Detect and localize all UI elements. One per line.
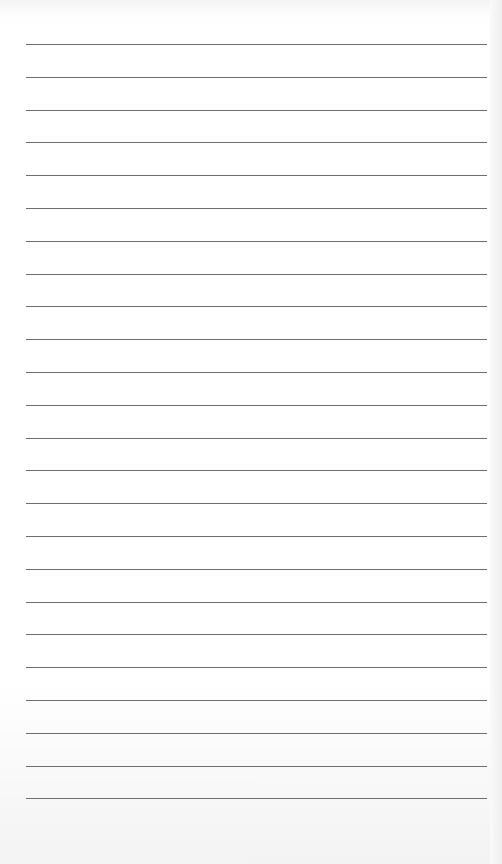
- ruled-line: [26, 274, 487, 275]
- ruled-line: [26, 667, 487, 668]
- ruled-line: [26, 142, 487, 143]
- ruled-line: [26, 602, 487, 603]
- ruled-line: [26, 241, 487, 242]
- ruled-line: [26, 700, 487, 701]
- ruled-line: [26, 372, 487, 373]
- ruled-line: [26, 766, 487, 767]
- ruled-line: [26, 503, 487, 504]
- ruled-line: [26, 339, 487, 340]
- ruled-line: [26, 110, 487, 111]
- ruled-line: [26, 798, 487, 799]
- paper-right-edge: [490, 0, 502, 864]
- ruled-line: [26, 470, 487, 471]
- ruled-line: [26, 733, 487, 734]
- ruled-line: [26, 634, 487, 635]
- lined-paper-sheet: [0, 0, 502, 864]
- ruled-line: [26, 569, 487, 570]
- ruled-line: [26, 44, 487, 45]
- ruled-line: [26, 208, 487, 209]
- ruled-line: [26, 405, 487, 406]
- ruled-line: [26, 438, 487, 439]
- ruled-line: [26, 175, 487, 176]
- ruled-line: [26, 536, 487, 537]
- ruled-line: [26, 306, 487, 307]
- ruled-line: [26, 77, 487, 78]
